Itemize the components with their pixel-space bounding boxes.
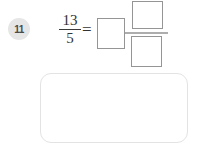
question-number-badge: 11 xyxy=(8,18,30,40)
work-area[interactable] xyxy=(40,73,188,143)
equals-sign: = xyxy=(82,21,92,38)
improper-fraction: 13 5 xyxy=(59,13,81,45)
answer-fraction-bar xyxy=(125,32,168,34)
denominator-input-box[interactable] xyxy=(131,36,162,67)
exercise-screen: 11 13 5 = xyxy=(0,0,199,151)
whole-number-input-box[interactable] xyxy=(97,18,125,49)
improper-fraction-numerator: 13 xyxy=(59,13,81,30)
improper-fraction-denominator: 5 xyxy=(59,30,81,45)
numerator-input-box[interactable] xyxy=(132,1,163,29)
